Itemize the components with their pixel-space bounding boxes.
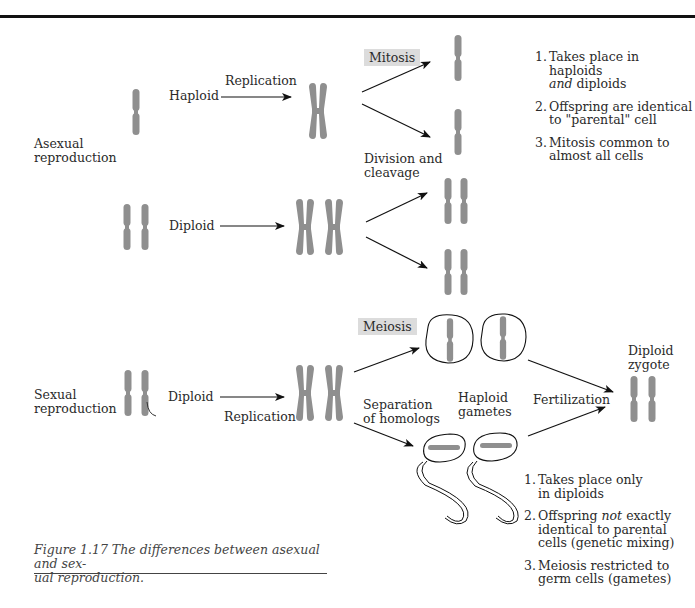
zygote-label-line2: zygote bbox=[628, 358, 674, 372]
mitosis-note-1: 1. Takes place in haploids and diploids bbox=[535, 50, 695, 91]
haploid-chromosome-icon bbox=[133, 89, 140, 135]
meiosis-tag: Meiosis bbox=[358, 318, 417, 335]
meiosis-arrow-up bbox=[354, 348, 419, 372]
meiosis-note-2: 2. Offspring not exactly identical to pa… bbox=[524, 509, 695, 550]
meiosis-notes-list: 1. Takes place only in diploids 2. Offsp… bbox=[524, 473, 695, 595]
mitosis-arrow-up bbox=[362, 62, 430, 92]
division-cleavage-label: Division and cleavage bbox=[364, 152, 443, 180]
asexual-label-line1: Asexual bbox=[34, 137, 117, 151]
replicated-diploid-chromosomes-icon bbox=[296, 199, 343, 255]
fertilization-label: Fertilization bbox=[533, 393, 610, 407]
gametes-label-line1: Haploid bbox=[458, 391, 512, 405]
asexual-label-line2: reproduction bbox=[34, 151, 117, 165]
diploid-label: Diploid bbox=[169, 219, 215, 233]
caption-line1: Figure 1.17 The differences between asex… bbox=[34, 543, 329, 571]
mitosis-notes-list: 1. Takes place in haploids and diploids … bbox=[535, 50, 695, 172]
diploid-zygote-label: Diploid zygote bbox=[628, 344, 674, 372]
replication-label: Replication bbox=[225, 74, 297, 88]
fertilization-arrow bbox=[528, 360, 613, 392]
meiosis-note-3: 3. Meiosis restricted to germ cells (gam… bbox=[524, 559, 695, 586]
division-label-line2: cleavage bbox=[364, 166, 443, 180]
diploid-chromosomes-icon bbox=[124, 204, 149, 250]
division-label-line1: Division and bbox=[364, 152, 443, 166]
replication-label: Replication bbox=[224, 410, 296, 424]
haploid-gametes-label: Haploid gametes bbox=[458, 391, 512, 419]
sexual-label-line1: Sexual bbox=[34, 388, 117, 402]
gametes-label-line2: gametes bbox=[458, 405, 512, 419]
mitosis-arrow-up bbox=[366, 193, 427, 222]
mitosis-arrow-down bbox=[362, 104, 430, 137]
caption-rule bbox=[34, 573, 327, 574]
egg-cell-icon bbox=[426, 315, 473, 363]
meiosis-note-1: 1. Takes place only in diploids bbox=[524, 473, 695, 500]
mitosis-tag: Mitosis bbox=[364, 49, 420, 66]
diploid-chromosomes-icon bbox=[125, 370, 157, 416]
replicated-haploid-chromosome-icon bbox=[309, 83, 327, 139]
mitosis-arrow-down bbox=[366, 237, 427, 268]
replicated-diploid-chromosomes-icon bbox=[296, 365, 343, 421]
fertilization-arrow bbox=[528, 407, 605, 436]
separation-of-homologs-label: Separation of homologs bbox=[363, 398, 440, 426]
haploid-label: Haploid bbox=[169, 89, 219, 103]
mitosis-note-3: 3. Mitosis common to almost all cells bbox=[535, 136, 695, 163]
zygote-label-line1: Diploid bbox=[628, 344, 674, 358]
daughter-chromosome-icon bbox=[455, 109, 462, 155]
sexual-reproduction-label: Sexual reproduction bbox=[34, 388, 117, 416]
daughter-chromosome-icon bbox=[455, 35, 462, 81]
asexual-reproduction-label: Asexual reproduction bbox=[34, 137, 117, 165]
daughter-diploid-icon bbox=[445, 178, 468, 224]
figure-caption: Figure 1.17 The differences between asex… bbox=[34, 543, 329, 585]
daughter-diploid-icon bbox=[445, 249, 468, 295]
separation-label-line1: Separation bbox=[363, 398, 440, 412]
diploid-label: Diploid bbox=[168, 390, 214, 404]
sperm-cell-icon bbox=[417, 434, 468, 524]
separation-label-line2: of homologs bbox=[363, 412, 440, 426]
diploid-zygote-icon bbox=[631, 376, 656, 422]
mitosis-note-2: 2. Offspring are identical to "parental"… bbox=[535, 100, 695, 127]
egg-cell-icon bbox=[481, 314, 526, 361]
sexual-label-line2: reproduction bbox=[34, 402, 117, 416]
sperm-cell-icon bbox=[467, 433, 518, 524]
meiosis-arrow-down bbox=[354, 423, 413, 446]
